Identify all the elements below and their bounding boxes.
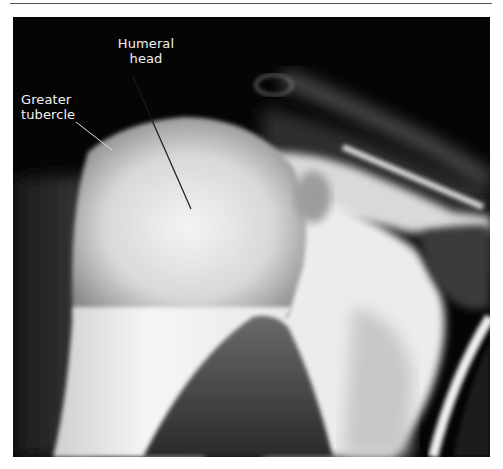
greater-tubercle-label: Greater tubercle [21,92,81,122]
greater-tubercle-label-line1: Greater [21,92,81,107]
humeral-head-label-line2: head [111,51,181,66]
greater-tubercle-label-line2: tubercle [21,107,81,122]
radiograph-image [13,17,490,457]
humeral-head-label-line1: Humeral [111,36,181,51]
shoulder-radiograph: Humeral head Greater tubercle [13,17,490,457]
greater-tubercle-leader-line [76,122,112,150]
top-rule-divider [10,3,492,4]
humeral-head-label: Humeral head [111,36,181,66]
